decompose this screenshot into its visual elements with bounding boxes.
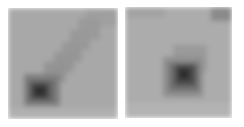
- right-panel: [125, 7, 232, 118]
- left-image-patch: [8, 8, 118, 119]
- right-image-patch: [125, 7, 232, 118]
- intensity-block: [36, 88, 44, 94]
- intensity-block: [179, 69, 189, 79]
- left-panel: [8, 8, 118, 119]
- intensity-block: [211, 7, 232, 21]
- intensity-block: [8, 108, 118, 119]
- intensity-block: [125, 103, 232, 118]
- intensity-block: [125, 7, 165, 17]
